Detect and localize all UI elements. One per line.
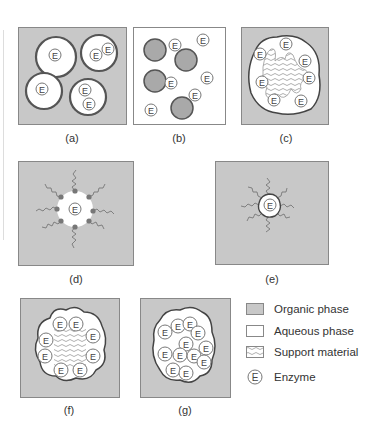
svg-text:E: E: [172, 41, 178, 51]
svg-text:E: E: [73, 320, 79, 330]
aqueous-droplet: E E: [70, 79, 106, 115]
svg-text:E: E: [39, 85, 45, 95]
legend-item-organic-phase: Organic phase: [246, 303, 349, 315]
svg-text:E: E: [58, 366, 64, 376]
svg-text:E: E: [52, 51, 58, 61]
enzyme-symbol: E: [72, 205, 78, 215]
panel-a-diagram: E E E E E E: [18, 27, 127, 125]
panel-f-diagram: E E E E E E E E: [20, 298, 120, 398]
svg-text:E: E: [191, 352, 197, 362]
legend-item-enzyme: E Enzyme: [246, 369, 316, 385]
panel-b-caption: (b): [159, 132, 199, 144]
organic-phase-swatch-icon: [246, 303, 264, 315]
aqueous-droplet: E E: [81, 35, 117, 71]
svg-text:E: E: [192, 91, 198, 101]
svg-text:E: E: [162, 350, 168, 360]
svg-text:E: E: [93, 51, 99, 61]
svg-text:E: E: [204, 74, 210, 84]
panel-g-diagram: E E E E E E E E E E E E: [140, 298, 231, 398]
svg-text:E: E: [77, 366, 83, 376]
aqueous-phase-swatch-icon: [246, 325, 264, 337]
panel-b-diagram: E E E E E E: [133, 27, 226, 125]
svg-text:E: E: [200, 36, 206, 46]
enzyme-symbol: E: [267, 201, 273, 211]
panel-c-diagram: E E E E E E E: [241, 27, 329, 125]
svg-text:E: E: [148, 106, 154, 116]
panel-g-caption: (g): [165, 404, 205, 416]
svg-text:E: E: [302, 57, 308, 67]
panel-e-diagram: E: [215, 161, 329, 265]
svg-text:E: E: [170, 366, 176, 376]
panel-e-caption: (e): [252, 273, 292, 285]
svg-text:E: E: [162, 328, 168, 338]
legend-label: Enzyme: [274, 371, 316, 383]
legend-label: Support material: [274, 346, 358, 358]
aqueous-droplet: E: [26, 73, 62, 109]
svg-text:E: E: [283, 40, 289, 50]
svg-text:E: E: [175, 322, 181, 332]
svg-text:E: E: [201, 358, 207, 368]
svg-text:E: E: [43, 336, 49, 346]
svg-text:E: E: [57, 320, 63, 330]
panel-a-caption: (a): [52, 132, 92, 144]
svg-text:E: E: [306, 74, 312, 84]
legend-item-aqueous-phase: Aqueous phase: [246, 325, 354, 337]
panel-c-caption: (c): [266, 132, 306, 144]
svg-text:E: E: [252, 372, 259, 383]
svg-text:E: E: [271, 96, 277, 106]
svg-text:E: E: [195, 329, 201, 339]
svg-text:E: E: [257, 50, 263, 60]
svg-text:E: E: [177, 351, 183, 361]
aqueous-droplet: E: [36, 37, 76, 77]
legend-label: Organic phase: [274, 303, 349, 315]
page-edge-divider: [0, 30, 4, 240]
svg-text:E: E: [183, 340, 189, 350]
svg-text:E: E: [183, 369, 189, 379]
support-material-swatch-icon: [246, 346, 264, 358]
svg-text:E: E: [90, 352, 96, 362]
svg-text:E: E: [105, 45, 111, 55]
enzyme-symbol-icon: E: [246, 369, 264, 385]
svg-text:E: E: [90, 332, 96, 342]
panel-d-caption: (d): [56, 273, 96, 285]
svg-text:E: E: [42, 352, 48, 362]
svg-text:E: E: [86, 100, 92, 110]
svg-text:E: E: [298, 97, 304, 107]
svg-text:E: E: [82, 86, 88, 96]
panel-d-diagram: E: [18, 161, 134, 266]
svg-text:E: E: [203, 344, 209, 354]
svg-text:E: E: [168, 79, 174, 89]
legend-label: Aqueous phase: [274, 325, 354, 337]
svg-text:E: E: [259, 78, 265, 88]
panel-f-caption: (f): [49, 404, 89, 416]
legend-item-support-material: Support material: [246, 346, 358, 358]
